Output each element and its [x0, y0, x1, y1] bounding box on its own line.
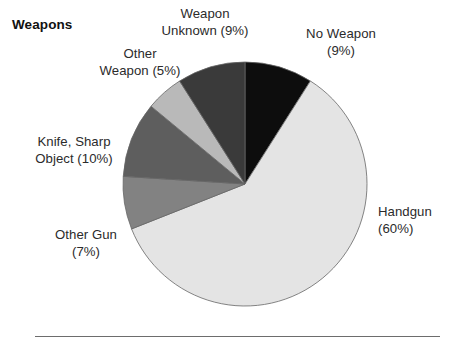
- pie-label-knife-sharp-object: Knife, Sharp Object (10%): [8, 134, 140, 167]
- footer-divider: [35, 336, 440, 337]
- pie-chart-figure: Weapons Weapon Unknown (9%) No Weapon (9…: [0, 0, 463, 340]
- pie-label-handgun: Handgun (60%): [378, 204, 460, 237]
- pie-label-other-weapon: Other Weapon (5%): [85, 46, 195, 79]
- pie-label-other-gun: Other Gun (7%): [30, 227, 142, 260]
- pie-label-weapon-unknown: Weapon Unknown (9%): [140, 6, 270, 39]
- pie-slice-group: [123, 62, 367, 306]
- pie-label-no-weapon: No Weapon (9%): [285, 26, 397, 59]
